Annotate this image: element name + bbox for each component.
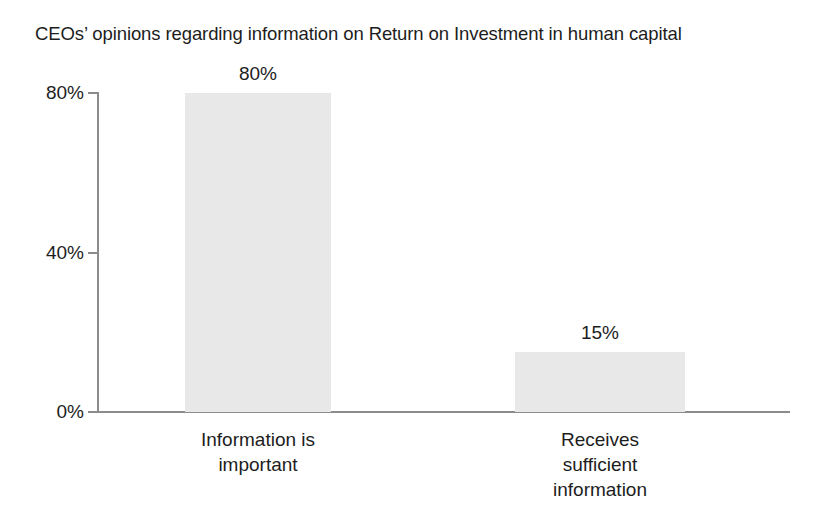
y-axis-line	[97, 92, 99, 413]
x-category-label-2-line-2: sufficient	[490, 452, 710, 477]
y-tick-label-0: 0%	[4, 402, 84, 421]
bar-information-is-important[interactable]	[185, 93, 331, 412]
x-category-label-1-line-1: Information is	[148, 427, 368, 452]
x-category-label-2-line-3: information	[490, 477, 710, 502]
y-tick-label-40: 40%	[4, 243, 84, 262]
y-tick-mark-80	[88, 92, 97, 94]
x-category-label-1: Information is important	[148, 427, 368, 477]
y-tick-mark-0	[88, 411, 97, 413]
bar-value-label-2: 15%	[515, 323, 685, 342]
bar-receives-sufficient-information[interactable]	[515, 352, 685, 412]
chart-title: CEOs’ opinions regarding information on …	[35, 22, 682, 46]
y-tick-label-40-wrap: 40%	[0, 243, 84, 262]
x-category-label-1-line-2: important	[148, 452, 368, 477]
y-tick-label-80-wrap: 80%	[0, 83, 84, 102]
bar-value-label-1: 80%	[185, 64, 331, 83]
y-tick-label-80: 80%	[4, 83, 84, 102]
y-tick-mark-40	[88, 252, 97, 254]
x-category-label-2: Receives sufficient information	[490, 427, 710, 502]
x-category-label-2-line-1: Receives	[490, 427, 710, 452]
y-tick-label-0-wrap: 0%	[0, 402, 84, 421]
